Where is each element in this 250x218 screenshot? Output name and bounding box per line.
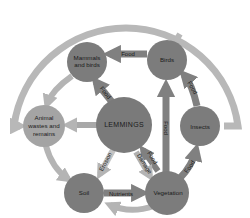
edge-label-food: Food — [163, 121, 169, 135]
edge-soil-to-veg: Nutrients — [104, 191, 142, 197]
arrow-veg-to-soil — [110, 205, 154, 210]
edge-birds-to-mammals: Food — [110, 51, 147, 57]
node-insects: Insects — [180, 106, 220, 146]
arrow-wastes-to-soil — [46, 146, 68, 179]
node-label: Vegetation — [153, 189, 183, 196]
edge-label-nutrients: Nutrients — [109, 191, 133, 197]
lemming-food-web-diagram: Food Food Food Food Food Food Damage Ero… — [0, 0, 250, 218]
node-label: Soil — [79, 189, 89, 196]
node-animal-wastes: Animal wastes and remains — [23, 105, 65, 147]
edge-insects-to-birds: Food — [184, 75, 198, 106]
node-label: Birds — [160, 56, 174, 63]
edge-veg-lemmings: Food Damage — [136, 150, 159, 176]
node-label: Insects — [190, 123, 210, 130]
node-label: Animal — [35, 114, 54, 121]
node-label: and birds — [74, 61, 99, 68]
edge-lemmings-to-mammals: Food — [96, 82, 112, 102]
edge-label-food: Food — [121, 51, 135, 57]
node-mammals-and-birds: Mammals and birds — [67, 42, 107, 82]
node-vegetation: Vegetation — [145, 171, 189, 215]
edge-veg-to-birds: Food — [163, 86, 169, 173]
edge-label-food: Food — [183, 159, 196, 174]
node-label: remains — [33, 130, 55, 137]
edge-veg-to-insects: Food — [180, 150, 196, 178]
node-birds: Birds — [147, 40, 187, 80]
edge-lemmings-to-soil: Erosion — [98, 150, 113, 174]
node-label: LEMMINGS — [104, 121, 144, 128]
node-label: Mammals — [74, 54, 101, 61]
node-soil: Soil — [64, 173, 104, 213]
node-lemmings: LEMMINGS — [96, 97, 152, 153]
node-label: wastes and — [27, 122, 60, 129]
arrow-mammals-to-wastes — [47, 76, 72, 104]
